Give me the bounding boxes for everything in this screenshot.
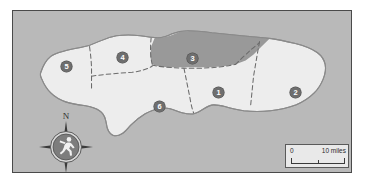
region-badge-3[interactable]: 3 [187,53,198,64]
region-badge-4[interactable]: 4 [117,52,128,63]
region-badge-6[interactable]: 6 [154,101,165,112]
scale-min-label: 0 [290,147,294,154]
scale-max-label: 10 miles [322,147,346,154]
region-badge-5[interactable]: 5 [61,61,72,72]
scale-bar: 0 10 miles [285,144,349,168]
scale-bar-midtick [318,160,319,163]
map-figure: 5 4 3 1 2 6 N [0,0,366,185]
scale-bar-ruler [291,158,345,164]
compass-north-label: N [39,111,93,121]
map-panel: 5 4 3 1 2 6 N [12,10,352,173]
scale-bar-labels: 0 10 miles [286,146,350,157]
region-badge-2[interactable]: 2 [290,87,301,98]
compass-dial-icon [39,121,93,173]
compass-rose: N [39,111,93,173]
region-badge-1[interactable]: 1 [213,87,224,98]
